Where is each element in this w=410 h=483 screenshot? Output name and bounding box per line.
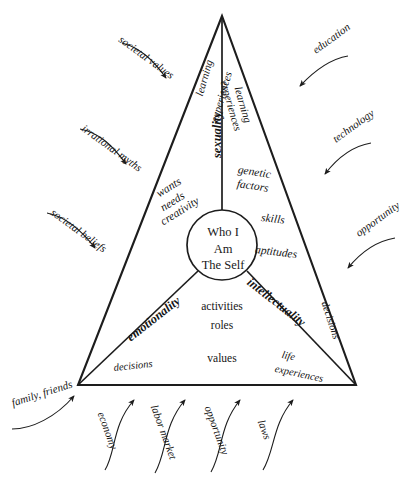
diagram-canvas: Who I Am The Self sexuality emotionality…	[0, 0, 410, 483]
label-skills: skills	[260, 211, 285, 227]
label-values: values	[177, 352, 267, 365]
label-activities: activities	[177, 300, 267, 313]
label-roles: roles	[177, 319, 267, 332]
self-line-1: Who I	[186, 224, 260, 241]
self-label: Who I Am The Self	[186, 224, 260, 274]
self-line-3: The Self	[186, 257, 260, 274]
right-influence-arrows	[300, 56, 395, 268]
label-life: life	[281, 349, 297, 363]
self-line-2: Am	[186, 241, 260, 258]
